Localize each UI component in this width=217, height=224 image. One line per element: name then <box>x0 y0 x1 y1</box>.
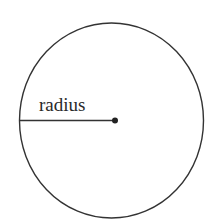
radius-label: radius <box>39 94 85 115</box>
circle-radius-diagram: radius <box>0 0 217 224</box>
center-point <box>112 118 118 124</box>
